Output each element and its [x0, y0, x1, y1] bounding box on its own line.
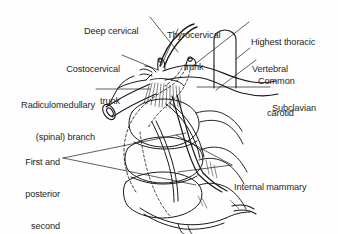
costocervical-trunk-artery [140, 66, 156, 76]
posterior-second-intercostal-artery [152, 121, 178, 202]
label-first-and-posterior-second-intercostal: First and posterior second intercostal [0, 136, 60, 234]
label-intercostal-line-3: second [0, 221, 60, 232]
label-thyrocervical-trunk: Thyrocervical trunk [167, 9, 220, 94]
label-subclavian-line-1: Subclavian [272, 103, 316, 114]
label-costocervical-trunk-line-1: Costocervical [0, 64, 120, 75]
leader-vertebral [236, 48, 250, 59]
label-thyrocervical-trunk-line-1: Thyrocervical [167, 30, 220, 41]
label-thyrocervical-trunk-line-2: trunk [167, 62, 220, 73]
label-radiculomedullary-line-1: Radiculomedullary [0, 100, 95, 111]
label-subclavian: Subclavian [272, 82, 316, 135]
anatomy-diagram-page: Deep cervical Thyrocervical trunk Highes… [0, 0, 338, 234]
leader-mammary-lower [178, 165, 232, 172]
label-intercostal-line-1: First and [0, 157, 60, 168]
label-intercostal-line-2: posterior [0, 189, 60, 200]
label-deep-cervical-line-1: Deep cervical [84, 26, 138, 37]
label-internal-mammary-line-1: Internal mammary [234, 182, 306, 193]
label-internal-mammary: Internal mammary [234, 161, 306, 214]
internal-mammary-artery [172, 95, 227, 192]
